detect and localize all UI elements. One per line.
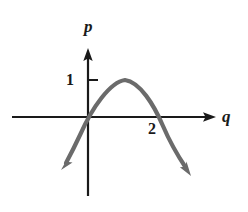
x-tick-label-2: 2 xyxy=(148,121,156,137)
y-axis-label: p xyxy=(84,18,93,35)
plot-canvas xyxy=(0,0,248,212)
parabola-figure: p q 1 2 xyxy=(0,0,248,212)
x-axis-label: q xyxy=(222,108,231,125)
y-tick-label-1: 1 xyxy=(66,72,74,88)
parabola-curve xyxy=(66,80,186,168)
